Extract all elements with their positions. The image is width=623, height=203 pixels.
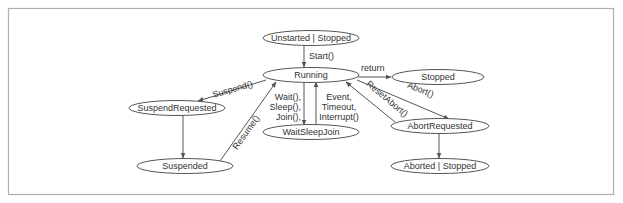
state-wait-sleep-join-label: WaitSleepJoin bbox=[282, 127, 339, 137]
label-return: return bbox=[361, 63, 385, 73]
state-aborted-label: Aborted | Stopped bbox=[404, 161, 476, 171]
label-wait-2: Sleep(), bbox=[269, 102, 301, 112]
state-wait-sleep-join: WaitSleepJoin bbox=[263, 125, 359, 140]
state-suspended: Suspended bbox=[137, 159, 233, 174]
label-start: Start() bbox=[309, 51, 334, 61]
label-wait-3: Join(), bbox=[276, 112, 301, 122]
state-abort-requested: AbortRequested bbox=[391, 119, 489, 134]
label-event-1: Event, bbox=[326, 92, 352, 102]
state-suspend-requested: SuspendRequested bbox=[129, 101, 225, 116]
state-unstarted-label: Unstarted | Stopped bbox=[271, 33, 351, 43]
state-aborted: Aborted | Stopped bbox=[391, 159, 489, 174]
label-event-2: Timeout, bbox=[322, 102, 357, 112]
state-stopped: Stopped bbox=[392, 70, 484, 85]
state-unstarted: Unstarted | Stopped bbox=[263, 31, 359, 46]
label-wait-1: Wait(), bbox=[275, 92, 301, 102]
state-abort-requested-label: AbortRequested bbox=[407, 121, 472, 131]
state-suspended-label: Suspended bbox=[162, 161, 208, 171]
state-stopped-label: Stopped bbox=[421, 72, 455, 82]
state-running-label: Running bbox=[294, 70, 328, 80]
label-event-3: Interrupt() bbox=[319, 112, 359, 122]
thread-state-diagram: Start() return Suspend() Resume() Wait()… bbox=[0, 0, 623, 203]
state-running: Running bbox=[263, 68, 359, 83]
state-suspend-requested-label: SuspendRequested bbox=[137, 103, 216, 113]
